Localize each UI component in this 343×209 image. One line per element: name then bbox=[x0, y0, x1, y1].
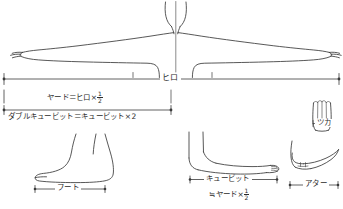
head-right-contour bbox=[180, 2, 186, 27]
foot-toe-line bbox=[35, 177, 46, 178]
left-arm-bottom bbox=[20, 52, 159, 77]
hand-label-text: ツカ bbox=[317, 118, 332, 127]
hand-label: ツカ bbox=[315, 119, 334, 127]
span-label: アター bbox=[303, 180, 329, 188]
cubit-forearm-illustration bbox=[189, 132, 279, 174]
double-cubit-equation-text: ダブルキュービット＝キュービット×2 bbox=[8, 112, 136, 121]
foot-illustration bbox=[35, 134, 113, 183]
measurement-diagram: ヒロ ヤード＝ヒロ×12 ダブルキュービット＝キュービット×2 フート キュービ… bbox=[0, 0, 343, 209]
right-hand-finger-2 bbox=[331, 54, 341, 55]
fathom-label: ヒロ bbox=[160, 74, 181, 82]
yard-equation-label: ヤード＝ヒロ×12 bbox=[45, 91, 105, 103]
left-hand-finger-3 bbox=[12, 56, 21, 58]
fathom-label-text: ヒロ bbox=[162, 73, 179, 82]
left-hand-finger-2 bbox=[11, 54, 21, 55]
right-arm-top bbox=[178, 33, 329, 53]
cubit-label-text: キュービット bbox=[206, 174, 250, 183]
right-hand-finger-3 bbox=[331, 56, 340, 58]
cubit-fraction: 12 bbox=[244, 188, 249, 200]
cubit-label: キュービット bbox=[204, 175, 252, 183]
double-cubit-equation-label: ダブルキュービット＝キュービット×2 bbox=[6, 113, 138, 121]
left-arm-top bbox=[23, 33, 174, 53]
span-label-text: アター bbox=[305, 179, 327, 188]
figure-outstretched-arms bbox=[11, 2, 342, 78]
yard-equation-text: ヤード＝ヒロ× bbox=[47, 93, 97, 102]
foot-label-text: フート bbox=[57, 183, 79, 192]
right-arm-bottom bbox=[192, 52, 331, 77]
yard-fraction: 12 bbox=[97, 91, 102, 103]
diagram-artwork bbox=[0, 0, 343, 209]
cubit-sublabel: ≒ヤード×12 bbox=[207, 188, 251, 200]
cubit-sublabel-text: ≒ヤード× bbox=[209, 190, 244, 199]
head-left-contour bbox=[165, 2, 171, 27]
foot-label: フート bbox=[55, 184, 81, 192]
foot-ankle-inner bbox=[93, 134, 96, 154]
span-ata-illustration bbox=[291, 141, 339, 169]
